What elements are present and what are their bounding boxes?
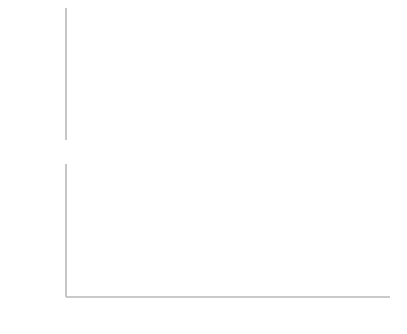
figure-container <box>0 0 407 334</box>
bottom-y-axis-title <box>23 162 36 282</box>
bottom-panel-plot <box>0 0 407 334</box>
